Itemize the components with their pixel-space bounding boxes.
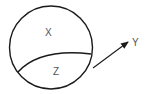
arrow: [93, 42, 128, 68]
diagram: X Z Y: [0, 0, 147, 94]
label-y: Y: [132, 37, 139, 48]
label-x: X: [45, 27, 52, 38]
sphere-circle: [10, 6, 93, 89]
label-z: Z: [53, 66, 59, 77]
